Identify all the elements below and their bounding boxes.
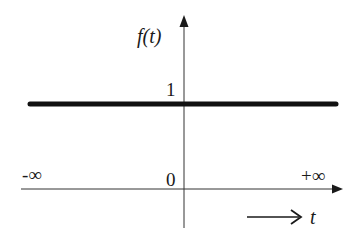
x-axis-arrowhead-icon [332,185,343,194]
level-label: 1 [166,79,176,100]
y-axis-label: f(t) [137,25,162,48]
right-limit-label: +∞ [301,165,325,186]
diagram-svg: f(t) 1 0 -∞ +∞ t [0,0,356,242]
y-axis-arrowhead-icon [180,15,189,27]
left-limit-label: -∞ [22,164,42,185]
x-axis-label: t [310,206,316,228]
origin-label: 0 [166,169,176,190]
constant-signal-diagram: f(t) 1 0 -∞ +∞ t [0,0,356,242]
